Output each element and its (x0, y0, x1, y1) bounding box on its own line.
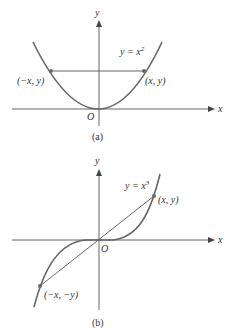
point-upper-label: (x, y) (158, 194, 179, 206)
y-axis-arrow-icon (96, 169, 102, 176)
caption-b: (b) (92, 317, 104, 329)
x-axis-arrow-icon (208, 106, 215, 112)
y-axis-label: y (94, 7, 100, 18)
panel-b-cubic: y x O y = x3 (x, y) (−x, −y) (b) (12, 155, 223, 329)
point-lower-label: (−x, −y) (44, 289, 79, 301)
point-left-marker (49, 69, 53, 73)
point-right-label: (x, y) (145, 75, 166, 87)
point-lower-marker (38, 284, 42, 288)
caption-a: (a) (92, 131, 103, 143)
point-left-label: (−x, y) (17, 75, 45, 87)
origin-label: O (101, 243, 108, 254)
origin-label: O (87, 111, 94, 122)
equation-label: y = x3 (124, 179, 150, 191)
chord-through-origin (40, 196, 154, 286)
x-axis-arrow-icon (208, 237, 215, 243)
y-axis-arrow-icon (96, 20, 102, 27)
figure: y x O y = x2 (−x, y) (x, y) (a) y x O y … (0, 0, 229, 335)
panel-a-parabola: y x O y = x2 (−x, y) (x, y) (a) (12, 7, 223, 143)
point-upper-marker (152, 194, 156, 198)
y-axis-label: y (94, 155, 100, 166)
x-axis-label: x (217, 234, 223, 245)
equation-label: y = x2 (119, 45, 145, 57)
point-right-marker (142, 69, 146, 73)
x-axis-label: x (217, 103, 223, 114)
